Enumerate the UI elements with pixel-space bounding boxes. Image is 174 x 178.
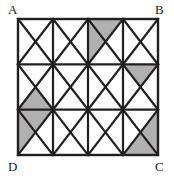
lattice-vertex-dot <box>86 108 90 112</box>
geometry-canvas <box>0 0 174 178</box>
lattice-vertex-dot <box>121 108 125 112</box>
lattice-vertex-dot <box>51 62 55 66</box>
vertex-label-b: B <box>155 3 164 16</box>
vertex-label-d: D <box>8 160 17 173</box>
vertex-label-a: A <box>8 3 17 16</box>
vertex-label-c: C <box>155 160 164 173</box>
lattice-vertex-dot <box>121 62 125 66</box>
lattice-vertex-dot <box>86 62 90 66</box>
lattice-vertex-dot <box>51 108 55 112</box>
geometry-figure: A B C D <box>0 0 174 178</box>
